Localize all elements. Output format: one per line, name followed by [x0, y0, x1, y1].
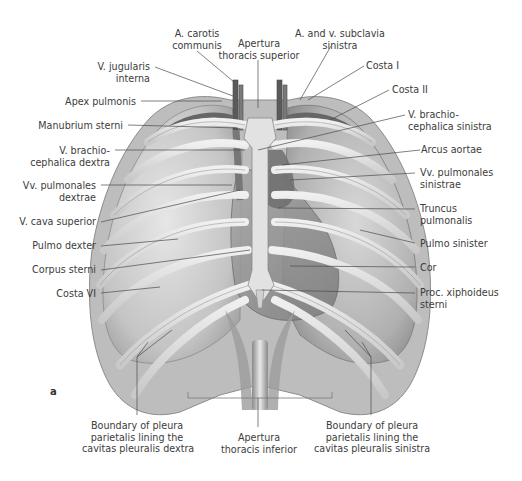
label-boundary-pleura-dextra: Boundary of pleura parietalis lining the… [82, 420, 192, 455]
label-line: Vv. pulmonales [420, 167, 493, 179]
label-line: dextrae [0, 192, 96, 204]
label-line: Pulmo sinister [420, 238, 488, 250]
label-line: cephalica dextra [10, 157, 110, 169]
label-proc-xiphoideus-sterni: Proc. xiphoideus sterni [420, 287, 499, 310]
label-costa-ii: Costa II [392, 84, 428, 96]
label-line: A. and v. subclavia [290, 28, 390, 40]
label-line: Costa II [392, 84, 428, 96]
label-line: cavitas pleuralis sinistra [314, 443, 430, 455]
label-line: Proc. xiphoideus [420, 287, 499, 299]
label-line: V. jugularis [50, 61, 150, 73]
label-line: Cor [420, 262, 437, 274]
panel-label: a [50, 386, 57, 397]
label-line: V. brachio- [10, 145, 110, 157]
label-line: interna [50, 73, 150, 85]
label-pulmo-dexter: Pulmo dexter [0, 240, 96, 252]
label-cor: Cor [420, 262, 437, 274]
label-line: Apertura [213, 432, 305, 444]
label-line: Manubrium sterni [20, 120, 123, 132]
label-line: sterni [420, 299, 499, 311]
label-v-brachiocephalica-sinistra: V. brachio- cephalica sinistra [408, 109, 492, 132]
label-line: parietalis lining the [82, 432, 192, 444]
label-vv-pulmonales-sinistrae: Vv. pulmonales sinistrae [420, 167, 493, 190]
label-line: Corpus sterni [0, 264, 96, 276]
label-v-jugularis-interna: V. jugularis interna [50, 61, 150, 84]
label-arcus-aortae: Arcus aortae [421, 144, 482, 156]
label-line: Arcus aortae [421, 144, 482, 156]
label-line: Truncus [420, 203, 472, 215]
label-line: V. cava superior [0, 216, 96, 228]
label-truncus-pulmonalis: Truncus pulmonalis [420, 203, 472, 226]
label-line: sinistra [290, 40, 390, 52]
label-v-cava-superior: V. cava superior [0, 216, 96, 228]
label-costa-vi: Costa VI [0, 288, 96, 300]
label-line: Costa I [366, 60, 399, 72]
label-pulmo-sinister: Pulmo sinister [420, 238, 488, 250]
label-costa-i: Costa I [366, 60, 399, 72]
label-line: Costa VI [0, 288, 96, 300]
label-manubrium-sterni: Manubrium sterni [20, 120, 123, 132]
label-line: thoracis superior [213, 50, 305, 62]
label-line: cavitas pleuralis dextra [82, 443, 192, 455]
label-corpus-sterni: Corpus sterni [0, 264, 96, 276]
label-line: Boundary of pleura [82, 420, 192, 432]
label-line: pulmonalis [420, 215, 472, 227]
label-a-v-subclavia-sinistra: A. and v. subclavia sinistra [290, 28, 390, 51]
label-line: Pulmo dexter [0, 240, 96, 252]
label-apertura-thoracis-inferior: Apertura thoracis inferior [213, 432, 305, 455]
label-line: V. brachio- [408, 109, 492, 121]
label-apex-pulmonis: Apex pulmonis [30, 96, 136, 108]
label-line: cephalica sinistra [408, 121, 492, 133]
label-line: sinistrae [420, 179, 493, 191]
label-line: Boundary of pleura [314, 420, 430, 432]
label-line: thoracis inferior [213, 444, 305, 456]
label-vv-pulmonales-dextrae: Vv. pulmonales dextrae [0, 180, 96, 203]
label-line: Vv. pulmonales [0, 180, 96, 192]
label-boundary-pleura-sinistra: Boundary of pleura parietalis lining the… [314, 420, 430, 455]
label-v-brachiocephalica-dextra: V. brachio- cephalica dextra [10, 145, 110, 168]
label-line: Apex pulmonis [30, 96, 136, 108]
label-line: parietalis lining the [314, 432, 430, 444]
